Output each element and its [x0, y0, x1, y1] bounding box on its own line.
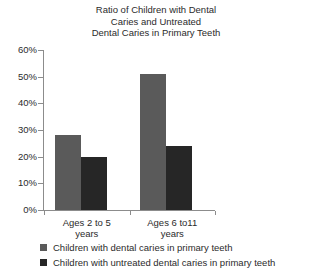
x-category-label: Ages 2 to 5years [44, 217, 130, 239]
legend-item: Children with dental caries in primary t… [40, 240, 310, 255]
chart-title: Ratio of Children with Dental Caries and… [0, 0, 312, 39]
y-tick-label: 50% [0, 72, 37, 82]
bar [140, 74, 166, 210]
x-category-label-line: years [44, 228, 130, 239]
y-tick-mark [38, 77, 43, 78]
legend-swatch-icon [40, 259, 47, 266]
x-tick-mark [215, 211, 216, 215]
y-axis-tick-labels: 0%10%20%30%40%50%60% [0, 41, 37, 216]
y-tick-mark [38, 157, 43, 158]
title-line-1: Ratio of Children with Dental [0, 4, 312, 16]
title-line-2: Caries and Untreated [0, 16, 312, 28]
x-category-label-line: Ages 6 to11 [130, 217, 216, 228]
title-line-3: Dental Caries in Primary Teeth [0, 27, 312, 39]
bar [55, 135, 81, 210]
y-tick-label: 60% [0, 45, 37, 55]
y-tick-mark [38, 210, 43, 211]
legend-label: Children with dental caries in primary t… [53, 243, 233, 253]
y-tick-mark [38, 103, 43, 104]
y-tick-mark [38, 50, 43, 51]
y-tick-label: 30% [0, 125, 37, 135]
y-tick-label: 20% [0, 152, 37, 162]
x-tick-mark [130, 211, 131, 215]
legend-label: Children with untreated dental caries in… [53, 258, 275, 268]
legend-swatch-icon [40, 244, 47, 251]
bar [166, 146, 192, 210]
x-category-label-line: Ages 2 to 5 [44, 217, 130, 228]
x-tick-mark [44, 211, 45, 215]
x-category-label-line: years [130, 228, 216, 239]
legend-item: Children with untreated dental caries in… [40, 255, 310, 270]
y-tick-mark [38, 130, 43, 131]
bar [81, 157, 107, 210]
bars-container [44, 50, 215, 210]
y-tick-label: 0% [0, 205, 37, 215]
chart-legend: Children with dental caries in primary t… [40, 240, 310, 270]
y-tick-label: 40% [0, 99, 37, 109]
y-tick-mark [38, 183, 43, 184]
x-category-label: Ages 6 to11years [130, 217, 216, 239]
y-tick-label: 10% [0, 179, 37, 189]
plot-area: 0%10%20%30%40%50%60% Ages 2 to 5yearsAge… [0, 41, 312, 216]
